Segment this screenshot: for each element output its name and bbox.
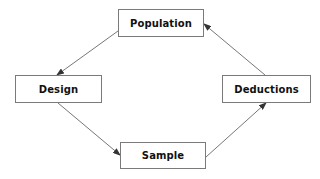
cycle-diagram: Population Design Sample Deductions — [0, 0, 320, 179]
arrow-sample-to-deductions — [206, 103, 266, 157]
node-label: Deductions — [234, 84, 298, 95]
node-sample: Sample — [120, 142, 206, 169]
node-label: Sample — [142, 150, 184, 161]
node-population: Population — [118, 9, 204, 37]
node-design: Design — [15, 75, 102, 103]
arrow-design-to-sample — [58, 103, 120, 155]
node-deductions: Deductions — [222, 75, 311, 103]
node-label: Design — [39, 84, 78, 95]
node-label: Population — [130, 18, 192, 29]
arrow-population-to-design — [57, 31, 118, 75]
arrow-deductions-to-population — [204, 24, 265, 75]
